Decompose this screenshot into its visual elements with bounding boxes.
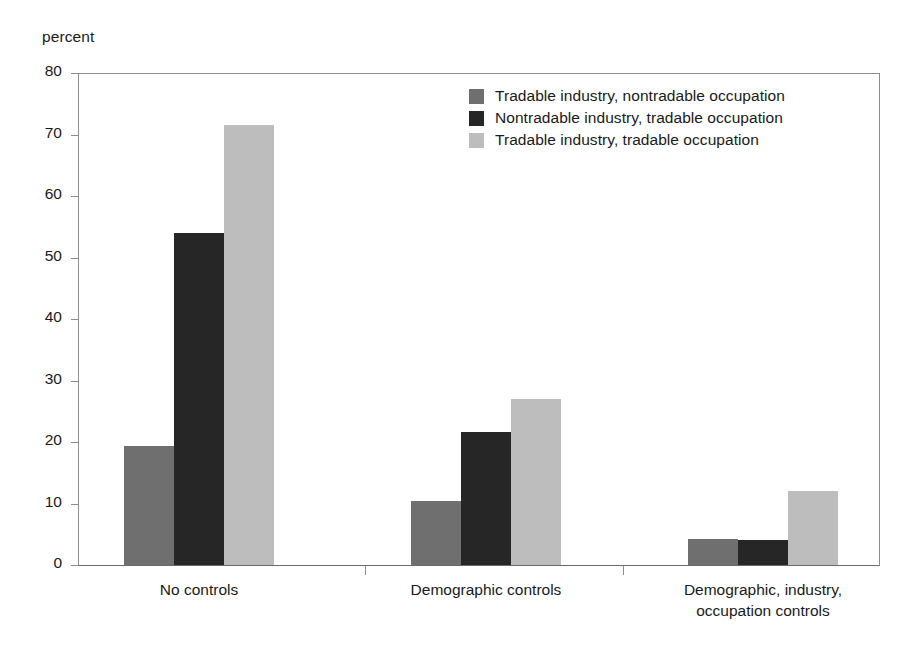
legend-item-0: Tradable industry, nontradable occupatio… (469, 87, 869, 105)
y-axis-tick-mark (71, 504, 78, 505)
x-axis-group-separator-1 (623, 566, 624, 575)
series-1-swatch (469, 111, 484, 126)
bar-group-1-series-0 (411, 501, 461, 565)
y-axis-tick-mark (71, 196, 78, 197)
legend-item-label: Tradable industry, nontradable occupatio… (495, 87, 785, 105)
category-label-line: occupation controls (623, 601, 903, 622)
category-label-line: No controls (59, 580, 339, 601)
bar-group-2-series-1 (738, 540, 788, 565)
series-0-swatch (469, 89, 484, 104)
y-axis-tick-mark (71, 565, 78, 566)
legend-item-2: Tradable industry, tradable occupation (469, 131, 869, 149)
category-label-line: Demographic controls (346, 580, 626, 601)
bar-chart-figure: percent 01020304050607080 No controlsDem… (0, 0, 919, 658)
y-axis-tick-label: 20 (45, 431, 62, 449)
x-axis-group-separator-0 (365, 566, 366, 575)
series-2-swatch (469, 133, 484, 148)
y-axis-tick-mark (71, 381, 78, 382)
y-axis-tick-mark (71, 258, 78, 259)
y-axis-tick-label: 70 (45, 124, 62, 142)
y-axis-tick-mark (71, 73, 78, 74)
x-axis-category-label-2: Demographic, industry,occupation control… (623, 580, 903, 622)
y-axis-tick-label: 50 (45, 247, 62, 265)
bar-group-0-series-2 (224, 125, 274, 565)
y-axis-tick-label: 60 (45, 185, 62, 203)
y-axis-tick-mark (71, 319, 78, 320)
y-axis-tick-label: 40 (45, 308, 62, 326)
legend-item-label: Tradable industry, tradable occupation (495, 131, 759, 149)
y-axis-tick-mark (71, 135, 78, 136)
y-axis-title: percent (42, 28, 94, 46)
y-axis-tick-mark (71, 442, 78, 443)
x-axis-category-label-0: No controls (59, 580, 339, 601)
y-axis-tick-label: 0 (53, 554, 62, 572)
bar-group-1-series-1 (461, 432, 511, 565)
category-label-line: Demographic, industry, (623, 580, 903, 601)
x-axis-category-label-1: Demographic controls (346, 580, 626, 601)
legend-item-label: Nontradable industry, tradable occupatio… (495, 109, 783, 127)
bar-group-0-series-0 (124, 446, 174, 565)
chart-legend: Tradable industry, nontradable occupatio… (455, 73, 880, 161)
bar-group-1-series-2 (511, 399, 561, 565)
y-axis-tick-label: 80 (45, 62, 62, 80)
bar-group-2-series-2 (788, 491, 838, 565)
bar-group-2-series-0 (688, 539, 738, 565)
legend-item-1: Nontradable industry, tradable occupatio… (469, 109, 869, 127)
bar-group-0-series-1 (174, 233, 224, 565)
y-axis-tick-label: 30 (45, 370, 62, 388)
y-axis-tick-label: 10 (45, 493, 62, 511)
